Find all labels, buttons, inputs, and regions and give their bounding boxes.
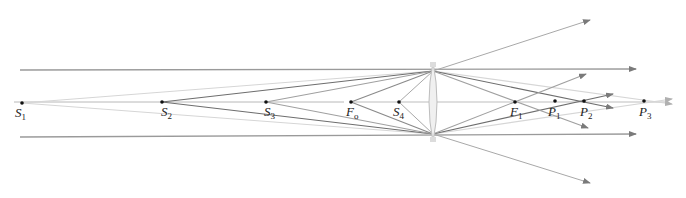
- lens-ray-diagram: S1 S2 S3 Fo S4 F1 P1 P2 P3: [0, 0, 686, 198]
- label-s3: S3: [264, 104, 276, 121]
- label-s1: S1: [15, 105, 26, 122]
- label-p3: P3: [638, 104, 652, 121]
- label-p2: P2: [579, 104, 592, 121]
- label-s4: S4: [393, 104, 405, 121]
- point-p1: [553, 99, 557, 103]
- label-fo: Fo: [345, 104, 359, 121]
- label-f1: F1: [509, 104, 522, 121]
- label-s2: S2: [161, 104, 172, 121]
- point-p3: [642, 99, 646, 103]
- point-p2: [582, 99, 586, 103]
